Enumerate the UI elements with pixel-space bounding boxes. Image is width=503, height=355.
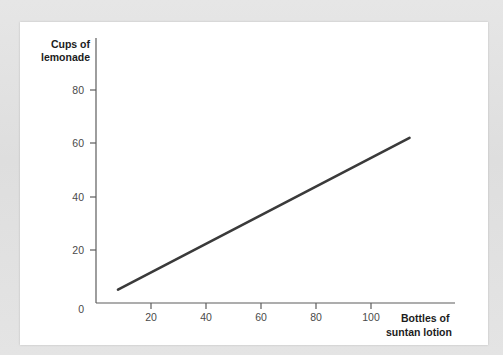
x-tick-label-60: 60: [255, 311, 267, 323]
x-axis-title-line2: suntan lotion: [386, 326, 452, 338]
chart-card: Cups of lemonade 80 60 40 20 0 20 40 60: [20, 22, 488, 345]
x-tick-label-40: 40: [200, 311, 212, 323]
y-tick-label-60: 60: [72, 137, 84, 149]
x-tick-label-80: 80: [310, 311, 322, 323]
line-chart: Cups of lemonade 80 60 40 20 0 20 40 60: [20, 22, 488, 345]
y-axis-title-line1: Cups of: [51, 38, 91, 50]
x-axis-title-line1: Bottles of: [401, 312, 450, 324]
data-line-series-0: [118, 138, 410, 290]
y-tick-label-80: 80: [72, 84, 84, 96]
chart-plot-area: Cups of lemonade 80 60 40 20 0 20 40 60: [20, 22, 488, 345]
y-tick-label-20: 20: [72, 244, 84, 256]
x-tick-label-100: 100: [362, 311, 380, 323]
x-tick-label-20: 20: [145, 311, 157, 323]
y-axis-title-line2: lemonade: [41, 51, 90, 63]
y-tick-label-40: 40: [72, 191, 84, 203]
y-tick-label-0: 0: [78, 303, 84, 315]
